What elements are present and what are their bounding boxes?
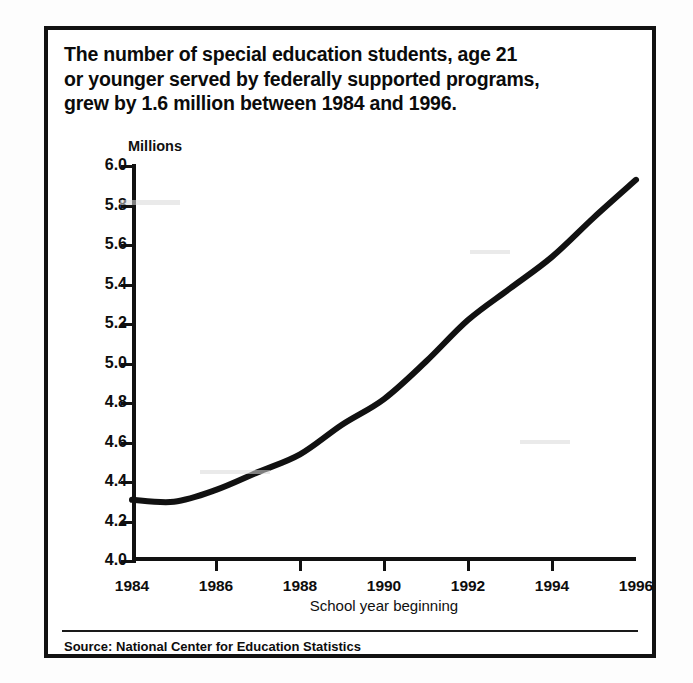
y-tick-label: 4.2 xyxy=(105,512,127,530)
series-line-path xyxy=(132,180,636,502)
y-tick-label: 4.6 xyxy=(105,433,127,451)
x-tick-mark xyxy=(551,560,554,571)
x-tick-label: 1992 xyxy=(451,577,485,595)
line-series-chart xyxy=(132,166,636,561)
x-tick-label: 1996 xyxy=(619,577,653,595)
y-axis-title: Millions xyxy=(128,138,182,154)
y-tick-label: 6.0 xyxy=(105,156,127,174)
source-divider xyxy=(62,630,638,632)
scanned-page: The number of special education students… xyxy=(0,0,693,683)
y-tick-label: 5.4 xyxy=(105,275,127,293)
y-tick-label: 5.6 xyxy=(105,235,127,253)
x-tick-label: 1994 xyxy=(535,577,569,595)
x-tick-mark xyxy=(383,560,386,571)
x-tick-label: 1984 xyxy=(115,577,149,595)
figure-inner: The number of special education students… xyxy=(48,30,652,654)
y-tick-label: 5.8 xyxy=(105,196,127,214)
x-tick-mark xyxy=(467,560,470,571)
y-tick-label: 4.0 xyxy=(105,551,127,569)
x-tick-label: 1990 xyxy=(367,577,401,595)
x-tick-label: 1986 xyxy=(199,577,233,595)
x-tick-label: 1988 xyxy=(283,577,317,595)
y-tick-label: 5.0 xyxy=(105,354,127,372)
x-tick-mark xyxy=(215,560,218,571)
y-tick-label: 4.4 xyxy=(105,472,127,490)
x-axis-title: School year beginning xyxy=(132,597,636,614)
figure-box: The number of special education students… xyxy=(44,26,656,658)
x-tick-mark xyxy=(299,560,302,571)
plot-area: 6.05.85.65.45.25.04.84.64.44.24.0 198419… xyxy=(132,166,636,561)
y-tick-label: 5.2 xyxy=(105,314,127,332)
source-note: Source: National Center for Education St… xyxy=(64,639,361,654)
plot-wrapper: Millions 6.05.85.65.45.25.04.84.64.44.24… xyxy=(48,30,652,654)
y-tick-label: 4.8 xyxy=(105,393,127,411)
